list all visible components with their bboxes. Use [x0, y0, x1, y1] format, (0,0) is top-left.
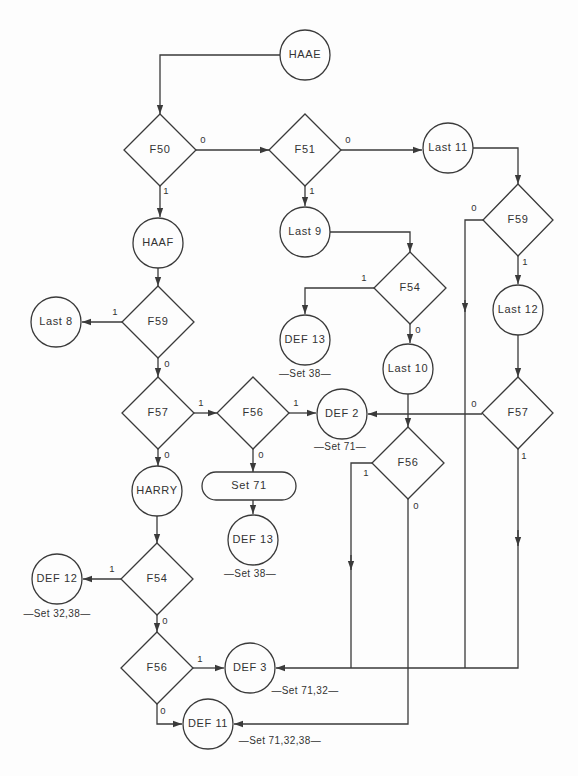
- node-def13-upper[interactable]: DEF 13 —Set 38—: [279, 315, 331, 379]
- node-label: Last 11: [428, 141, 467, 153]
- node-label: F57: [148, 406, 169, 418]
- edge-label-f54m-0: 0: [415, 324, 420, 335]
- node-label: F50: [150, 143, 171, 155]
- edge-label-f56m-1: 1: [293, 397, 298, 408]
- node-label: DEF 11: [188, 717, 228, 729]
- node-note: —Set 71—: [314, 441, 366, 452]
- decision-f56-right[interactable]: F56: [372, 427, 444, 499]
- node-label: F59: [508, 213, 529, 225]
- decision-f51[interactable]: F51: [269, 114, 341, 186]
- node-label: DEF 12: [37, 572, 78, 584]
- node-label: F56: [243, 406, 264, 418]
- node-label: F56: [398, 456, 419, 468]
- nodes: HAAE F50 F51 Last 11 F59 Last 9: [23, 30, 553, 749]
- edge-last9-f54: [330, 232, 410, 252]
- edge-label-f57l-0: 0: [164, 449, 169, 460]
- edge-f54-def13: [305, 288, 374, 314]
- node-label: Set 71: [231, 479, 266, 491]
- node-last12[interactable]: Last 12: [493, 285, 543, 335]
- node-label: DEF 13: [285, 333, 326, 345]
- node-note: —Set 71,32,38—: [239, 735, 321, 746]
- node-label: F59: [148, 315, 169, 327]
- node-note: —Set 32,38—: [23, 608, 90, 619]
- edge-haae-f50: [160, 55, 280, 114]
- edge-f56r-def3: [351, 463, 372, 668]
- edge-label-f59l-1: 1: [112, 306, 117, 317]
- decision-f57-right[interactable]: F57: [482, 377, 553, 449]
- edge-label-f59l-0: 0: [164, 358, 169, 369]
- decision-f56-mid[interactable]: F56: [217, 377, 289, 449]
- node-haae[interactable]: HAAE: [280, 30, 330, 80]
- node-label: F57: [508, 406, 529, 418]
- edge-label-f56r-0: 0: [413, 500, 418, 511]
- process-set71[interactable]: Set 71: [202, 472, 296, 500]
- edge-label-f51-1: 1: [309, 185, 314, 196]
- node-label: HARRY: [136, 484, 177, 496]
- node-def2[interactable]: DEF 2 —Set 71—: [314, 389, 367, 452]
- edge-label-f51-0: 0: [345, 134, 350, 145]
- node-label: Last 10: [388, 362, 428, 374]
- decision-f57-left[interactable]: F57: [122, 377, 194, 449]
- decision-f54-mid[interactable]: F54: [374, 252, 446, 324]
- node-def13-lower[interactable]: DEF 13 —Set 38—: [224, 515, 278, 579]
- decision-f56-lower[interactable]: F56: [121, 632, 193, 704]
- node-label: DEF 13: [233, 533, 274, 545]
- node-label: DEF 3: [233, 661, 267, 673]
- edge-label-f54m-1: 1: [361, 272, 366, 283]
- decision-f54-lower[interactable]: F54: [121, 543, 193, 615]
- node-label: F51: [295, 143, 316, 155]
- node-label: Last 12: [498, 303, 538, 315]
- node-label: F54: [400, 281, 421, 293]
- decision-f59-left[interactable]: F59: [122, 286, 194, 358]
- decision-f59-right[interactable]: F59: [483, 184, 553, 256]
- edge-label-f59r-1: 1: [522, 256, 527, 267]
- edge-label-f50-1: 1: [163, 185, 168, 196]
- node-last9[interactable]: Last 9: [280, 207, 330, 257]
- edge-label-f50-0: 0: [200, 134, 205, 145]
- node-def12[interactable]: DEF 12 —Set 32,38—: [23, 554, 90, 619]
- edge-label-f56m-0: 0: [258, 449, 263, 460]
- node-note: —Set 38—: [279, 368, 331, 379]
- node-label: Last 8: [39, 315, 73, 327]
- flowchart-canvas: 0 1 0 1 0 1 1 0 1 0 1 0 1 0 0 1 1 0 1 0 …: [0, 0, 578, 776]
- node-label: Last 9: [288, 225, 322, 237]
- node-label: HAAE: [289, 48, 321, 60]
- node-note: —Set 38—: [224, 568, 276, 579]
- node-last8[interactable]: Last 8: [31, 297, 81, 347]
- node-last11[interactable]: Last 11: [423, 123, 473, 173]
- edge-label-f56l-1: 1: [197, 653, 202, 664]
- node-label: HAAF: [142, 236, 174, 248]
- edge-label-f56l-0: 0: [160, 705, 165, 716]
- edge-f59-def3: [465, 220, 483, 668]
- node-label: F54: [147, 572, 168, 584]
- node-note: —Set 71,32—: [271, 685, 338, 696]
- edge-label-f54l-0: 0: [162, 615, 167, 626]
- node-def3[interactable]: DEF 3 —Set 71,32—: [225, 643, 339, 696]
- edge-label-f57r-0: 0: [471, 398, 476, 409]
- edge-label-f57l-1: 1: [198, 397, 203, 408]
- edge-label-f54l-1: 1: [109, 563, 114, 574]
- decision-f50[interactable]: F50: [124, 114, 196, 186]
- edge-label-f57r-1: 1: [521, 450, 526, 461]
- edge-last11-f59: [473, 148, 518, 184]
- edge-label-f59r-0: 0: [471, 202, 476, 213]
- edge-label-f56r-1: 1: [363, 467, 368, 478]
- node-label: DEF 2: [325, 407, 359, 419]
- node-harry[interactable]: HARRY: [132, 466, 182, 516]
- node-haaf[interactable]: HAAF: [133, 218, 183, 268]
- node-label: F56: [147, 661, 168, 673]
- node-last10[interactable]: Last 10: [383, 344, 433, 394]
